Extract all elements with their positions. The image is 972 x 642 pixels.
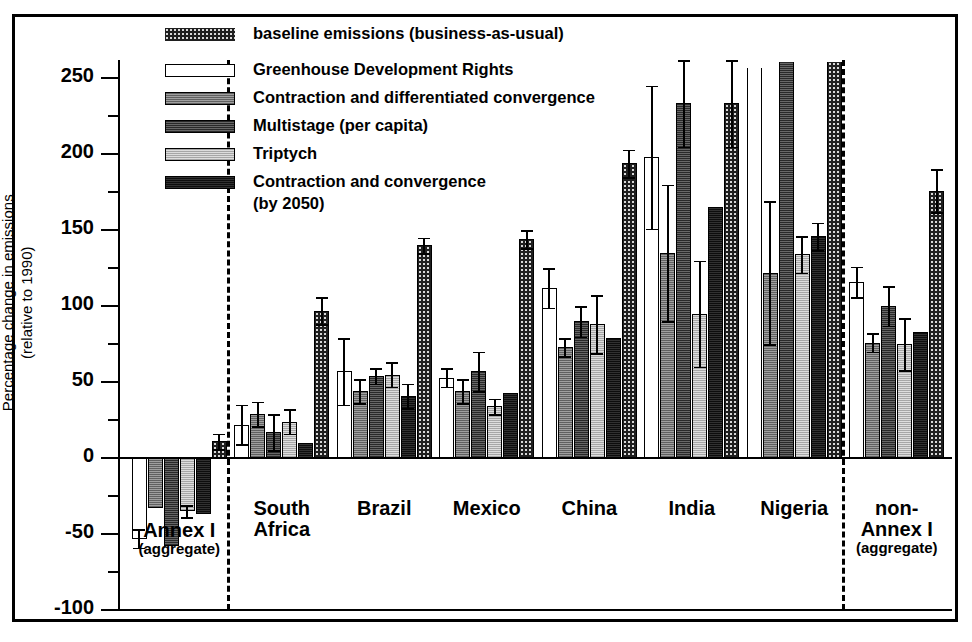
group-label-sub: Africa bbox=[217, 519, 348, 540]
error-bar-cap bbox=[559, 356, 571, 358]
bar bbox=[148, 458, 163, 508]
bar bbox=[369, 376, 384, 458]
error-bar-cap bbox=[236, 444, 248, 446]
y-tick-label: -100 bbox=[32, 596, 94, 619]
error-bar-cap bbox=[402, 408, 414, 410]
legend-label: Greenhouse Development Rights bbox=[253, 60, 513, 78]
error-bar-cap bbox=[851, 297, 863, 299]
error-bar bbox=[494, 399, 496, 414]
error-bar-cap bbox=[543, 308, 555, 310]
error-bar bbox=[936, 169, 938, 212]
legend-swatch bbox=[165, 28, 235, 41]
bar bbox=[929, 191, 944, 458]
error-bar bbox=[564, 338, 566, 356]
legend-item: Triptych bbox=[165, 144, 685, 171]
error-bar-cap bbox=[338, 338, 350, 340]
error-bar bbox=[801, 236, 803, 272]
y-tick-major bbox=[101, 153, 118, 155]
error-bar-cap bbox=[575, 337, 587, 339]
error-bar bbox=[856, 267, 858, 297]
error-bar bbox=[596, 295, 598, 353]
error-bar-cap bbox=[213, 434, 225, 436]
error-bar-cap bbox=[559, 338, 571, 340]
y-tick-label: 0 bbox=[32, 444, 94, 467]
error-bar bbox=[186, 505, 188, 517]
error-bar bbox=[699, 261, 701, 367]
error-bar bbox=[375, 368, 377, 383]
bar bbox=[503, 393, 518, 458]
bar bbox=[913, 332, 928, 458]
y-tick-major bbox=[101, 457, 118, 459]
error-bar bbox=[731, 60, 733, 147]
group-label-sub2: (aggregate) bbox=[832, 540, 963, 556]
bar bbox=[558, 347, 573, 458]
error-bar-cap bbox=[764, 201, 776, 203]
error-bar-cap bbox=[796, 273, 808, 275]
legend: baseline emissions (business-as-usual)Gr… bbox=[165, 24, 685, 217]
error-bar bbox=[526, 230, 528, 248]
bar bbox=[747, 68, 762, 458]
legend-item: Multistage (per capita) bbox=[165, 116, 685, 143]
error-bar-cap bbox=[354, 403, 366, 405]
bar bbox=[795, 254, 810, 458]
error-bar-cap bbox=[473, 352, 485, 354]
error-bar bbox=[391, 362, 393, 386]
error-bar bbox=[359, 379, 361, 403]
error-bar-cap bbox=[338, 405, 350, 407]
legend-item: baseline emissions (business-as-usual) bbox=[165, 24, 685, 51]
error-bar bbox=[257, 402, 259, 426]
group-label-sub: Annex I bbox=[832, 519, 963, 540]
error-bar-cap bbox=[812, 250, 824, 252]
chart-root: Percentage change in emissions (relative… bbox=[0, 0, 972, 642]
error-bar bbox=[478, 352, 480, 392]
legend-swatch bbox=[165, 92, 235, 105]
error-bar-cap bbox=[796, 236, 808, 238]
error-bar-cap bbox=[370, 368, 382, 370]
error-bar bbox=[446, 368, 448, 386]
error-bar-cap bbox=[521, 230, 533, 232]
bar bbox=[542, 288, 557, 458]
legend-item: (by 2050) bbox=[165, 194, 685, 216]
error-bar-cap bbox=[764, 344, 776, 346]
legend-swatch bbox=[165, 120, 235, 133]
y-tick-minor bbox=[108, 267, 118, 269]
group-label-sub: (aggregate) bbox=[114, 541, 245, 557]
error-bar bbox=[273, 414, 275, 450]
error-bar-cap bbox=[252, 402, 264, 404]
error-bar-cap bbox=[418, 238, 430, 240]
y-tick-major bbox=[101, 609, 118, 611]
error-bar-cap bbox=[441, 387, 453, 389]
y-tick-minor bbox=[108, 343, 118, 345]
y-tick-major bbox=[101, 381, 118, 383]
legend-label: baseline emissions (business-as-usual) bbox=[253, 24, 564, 42]
error-bar-cap bbox=[662, 321, 674, 323]
bar bbox=[574, 321, 589, 458]
error-bar-cap bbox=[402, 384, 414, 386]
error-bar bbox=[462, 379, 464, 403]
error-bar-cap bbox=[489, 399, 501, 401]
bar bbox=[827, 62, 842, 459]
y-tick-minor bbox=[108, 571, 118, 573]
error-bar-cap bbox=[867, 352, 879, 354]
bar bbox=[180, 458, 195, 511]
error-bar-cap bbox=[591, 295, 603, 297]
error-bar bbox=[904, 318, 906, 370]
bar bbox=[881, 306, 896, 458]
error-bar bbox=[817, 223, 819, 250]
error-bar-cap bbox=[316, 297, 328, 299]
error-bar-cap bbox=[521, 248, 533, 250]
error-bar bbox=[888, 286, 890, 326]
legend-swatch bbox=[165, 148, 235, 161]
legend-label: Multistage (per capita) bbox=[253, 116, 428, 134]
error-bar-cap bbox=[726, 147, 738, 149]
bar bbox=[724, 103, 739, 459]
y-tick-label: 150 bbox=[32, 216, 94, 239]
error-bar-cap bbox=[284, 434, 296, 436]
y-tick-minor bbox=[108, 495, 118, 497]
error-bar-cap bbox=[457, 379, 469, 381]
y-tick-major bbox=[101, 305, 118, 307]
bar bbox=[811, 236, 826, 458]
y-tick-label: 100 bbox=[32, 292, 94, 315]
y-tick-minor bbox=[108, 115, 118, 117]
error-bar-cap bbox=[883, 286, 895, 288]
